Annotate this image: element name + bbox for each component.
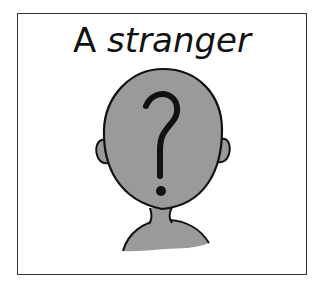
stranger-silhouette-icon <box>0 0 318 287</box>
